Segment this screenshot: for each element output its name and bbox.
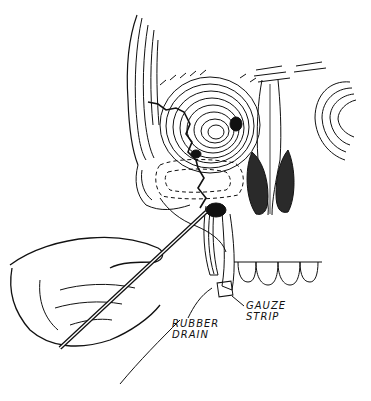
rubber-drain-label: RUBBER DRAIN (172, 318, 219, 340)
gauze-strip-label-line1: GAUZE (246, 300, 286, 311)
rubber-drain-label-line2: DRAIN (172, 329, 219, 340)
medical-illustration: RUBBER DRAIN GAUZE STRIP (0, 0, 371, 401)
skull-drawing (0, 0, 371, 401)
gauze-strip-label: GAUZE STRIP (246, 300, 286, 322)
gauze-strip-label-line2: STRIP (246, 311, 286, 322)
rubber-drain-label-line1: RUBBER (172, 318, 219, 329)
